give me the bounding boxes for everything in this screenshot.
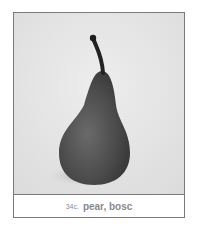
produce-card: 34c. pear, bosc — [13, 12, 185, 218]
item-code: 34c. — [66, 203, 79, 210]
pear-photo — [14, 13, 184, 195]
pear-image — [14, 13, 184, 194]
caption: 34c. pear, bosc — [14, 195, 184, 217]
stem-tip — [90, 35, 96, 41]
item-name: pear, bosc — [83, 201, 132, 212]
